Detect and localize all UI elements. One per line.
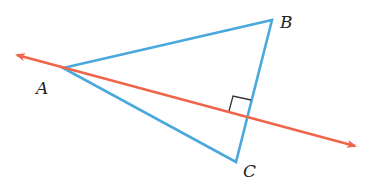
triangle-abc	[63, 20, 272, 162]
vertex-label-a: A	[34, 78, 48, 98]
right-angle-marker	[229, 96, 251, 111]
perpendicular-line	[17, 55, 355, 146]
diagram-canvas: A B C	[0, 0, 369, 187]
vertex-label-b: B	[279, 12, 293, 32]
vertex-label-c: C	[243, 161, 256, 181]
